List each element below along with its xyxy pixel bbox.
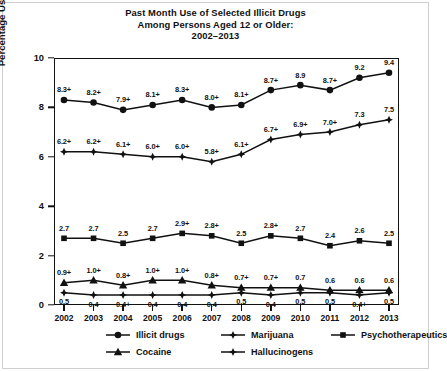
y-axis-tick-label: 6 (39, 152, 44, 162)
series-line (64, 120, 389, 162)
data-point-label: 2.7 (89, 224, 99, 233)
data-point-label: 6.0+ (175, 142, 189, 151)
data-point-marker (238, 240, 244, 246)
cross-diamond-marker (220, 330, 246, 340)
data-point-marker (208, 104, 215, 111)
x-axis-tick-label: 2010 (291, 313, 310, 323)
x-axis-tick-label: 2003 (84, 313, 103, 323)
legend-item-cocaine[interactable]: Cocaine (105, 347, 171, 357)
data-point-marker (150, 236, 156, 242)
data-point-label: 5.8+ (205, 147, 219, 156)
data-point-label: 1.0+ (86, 266, 100, 275)
data-point-label: 6.1+ (116, 140, 130, 149)
data-point-label: 8.1+ (234, 90, 248, 99)
series-line (64, 293, 389, 295)
data-point-label: 7.0+ (323, 118, 337, 127)
chart-title-line-2: Among Persons Aged 12 or Older: (0, 19, 431, 31)
data-point-marker (90, 291, 98, 299)
data-point-label: 8.1+ (146, 90, 160, 99)
data-point-label: 0.8+ (205, 271, 219, 280)
chart-title-line-3: 2002–2013 (0, 30, 431, 42)
data-point-label: 2.5 (384, 229, 394, 238)
data-point-marker (209, 233, 215, 239)
data-point-marker (356, 74, 363, 81)
data-point-label: 0.6 (354, 276, 364, 285)
data-point-marker (61, 236, 67, 242)
data-point-marker (385, 116, 393, 124)
data-point-label: 2.5 (236, 229, 246, 238)
legend-item-illicit-drugs[interactable]: Illicit drugs (105, 330, 185, 340)
legend-item-psychotherapeutics[interactable]: Psychotherapeutics (330, 330, 447, 340)
data-point-marker (90, 148, 98, 156)
y-axis-tick-label: 4 (39, 201, 44, 211)
data-point-marker (178, 153, 186, 161)
x-axis-tick-label: 2012 (350, 313, 369, 323)
data-point-marker (60, 148, 68, 156)
data-point-label: 6.1+ (234, 140, 248, 149)
series-marijuana (60, 116, 393, 166)
data-point-label: 7.9+ (116, 95, 130, 104)
data-point-label: 9.4 (384, 58, 394, 67)
data-point-marker (60, 289, 68, 297)
data-point-marker (327, 243, 333, 249)
data-point-marker (179, 97, 186, 104)
data-point-label: 2.5 (118, 229, 128, 238)
data-point-marker (268, 87, 275, 94)
data-point-marker (238, 102, 245, 109)
data-point-label: 0.6 (384, 276, 394, 285)
x-axis-tick-mark (181, 305, 182, 311)
data-point-label: 7.5 (384, 105, 394, 114)
series-cocaine (60, 276, 393, 293)
data-point-label: 6.9+ (293, 120, 307, 129)
y-axis-tick-label: 0 (39, 300, 44, 310)
data-point-marker (61, 97, 68, 104)
data-point-label: 6.7+ (264, 125, 278, 134)
series-line (64, 280, 389, 290)
cross-diamond-marker (220, 347, 246, 357)
data-point-label: 1.0+ (175, 266, 189, 275)
legend-item-hallucinogens[interactable]: Hallucinogens (220, 347, 313, 357)
y-axis-tick-label: 2 (39, 251, 44, 261)
x-axis-tick-label: 2002 (54, 313, 73, 323)
data-point-label: 0.9+ (57, 268, 71, 277)
data-point-label: 0.8+ (116, 271, 130, 280)
data-point-label: 2.7 (148, 224, 158, 233)
x-axis-tick-mark (270, 305, 271, 311)
series-line (64, 233, 389, 245)
x-axis-tick-label: 2009 (261, 313, 280, 323)
data-point-marker (386, 70, 393, 77)
data-point-marker (178, 291, 186, 299)
data-point-marker (268, 233, 274, 239)
y-axis-ticks: 0246810 (0, 58, 54, 305)
x-axis-tick-label: 2013 (379, 313, 398, 323)
x-axis-tick-label: 2006 (173, 313, 192, 323)
x-axis-tick-label: 2011 (321, 313, 340, 323)
data-point-marker (90, 99, 97, 106)
data-point-label: 2.7 (295, 224, 305, 233)
data-point-marker (91, 236, 97, 242)
data-point-marker (296, 131, 304, 139)
x-axis-tick-mark (63, 305, 64, 311)
x-axis-tick-mark (122, 305, 123, 311)
data-point-label: 6.2+ (57, 137, 71, 146)
data-point-marker (149, 102, 156, 109)
data-point-label: 0.7+ (234, 273, 248, 282)
data-point-marker (208, 158, 216, 166)
legend-item-label: Marijuana (251, 330, 293, 340)
data-point-label: 1.0+ (146, 266, 160, 275)
data-point-marker (120, 240, 126, 246)
data-point-marker (297, 82, 304, 89)
data-point-label: 8.3+ (175, 85, 189, 94)
legend-item-label: Cocaine (136, 347, 171, 357)
circle-marker (105, 330, 131, 340)
data-point-label: 6.0+ (146, 142, 160, 151)
data-point-label: 8.9 (295, 71, 305, 80)
series-line (64, 73, 389, 110)
x-axis-tick-label: 2008 (232, 313, 251, 323)
legend-item-marijuana[interactable]: Marijuana (220, 330, 293, 340)
x-axis-tick-mark (329, 305, 330, 311)
data-point-marker (120, 107, 127, 114)
data-point-marker (267, 291, 275, 299)
data-point-marker (267, 136, 275, 144)
